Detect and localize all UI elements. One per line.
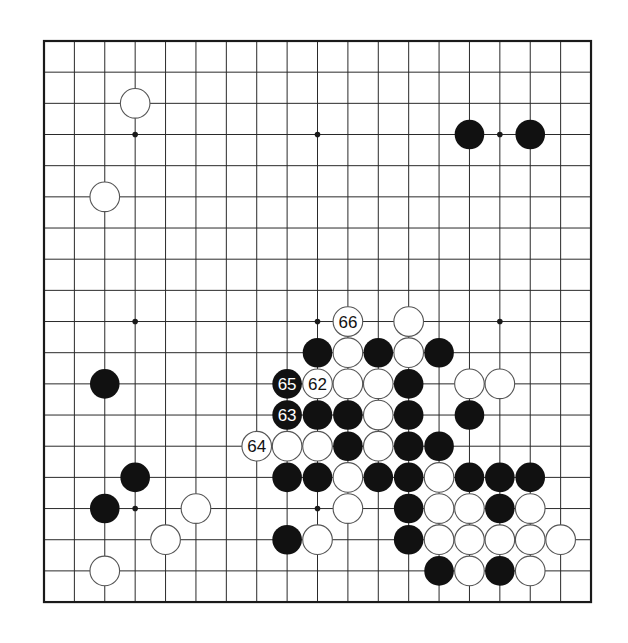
white-stone-icon [546, 525, 576, 555]
white-stone [272, 431, 302, 461]
white-stone-icon [485, 369, 515, 399]
black-stone-icon [485, 556, 515, 586]
white-stone-icon [151, 525, 181, 555]
white-stone [363, 369, 393, 399]
black-stone [90, 494, 120, 524]
black-stone [363, 338, 393, 368]
black-stone-icon [90, 369, 120, 399]
black-stone-icon [90, 494, 120, 524]
white-stone [333, 463, 363, 493]
white-stone [424, 494, 454, 524]
white-stone-icon [424, 525, 454, 555]
white-stone-icon [515, 556, 545, 586]
white-stone [455, 556, 485, 586]
go-board-diagram: 6665626364 [0, 0, 628, 643]
white-stone-icon [303, 525, 333, 555]
black-stone-icon [272, 525, 302, 555]
white-stone-icon [363, 431, 393, 461]
star-point-icon [497, 132, 503, 138]
white-stone-icon [363, 369, 393, 399]
black-stone-icon [120, 463, 150, 493]
black-stone-icon [394, 463, 424, 493]
white-stone-icon [90, 182, 120, 212]
white-stone [363, 400, 393, 430]
white-stone [485, 525, 515, 555]
white-stone [90, 556, 120, 586]
white-stone-icon [455, 369, 485, 399]
black-stone-icon [424, 431, 454, 461]
white-stone-icon [90, 556, 120, 586]
white-stone [455, 494, 485, 524]
black-stone [394, 400, 424, 430]
white-stone-icon [424, 494, 454, 524]
black-stone-icon [394, 369, 424, 399]
white-stone [151, 525, 181, 555]
white-stone-icon [455, 494, 485, 524]
white-stone [515, 494, 545, 524]
star-point-icon [132, 319, 138, 325]
white-stone-icon [424, 463, 454, 493]
black-stone [485, 556, 515, 586]
white-stone-icon [333, 369, 363, 399]
white-stone: 62 [303, 369, 333, 399]
black-stone-icon [455, 463, 485, 493]
black-stone-icon [363, 463, 393, 493]
white-stone [546, 525, 576, 555]
black-stone [455, 463, 485, 493]
star-point-icon [132, 132, 138, 138]
move-number-label: 65 [278, 375, 297, 394]
black-stone-icon [455, 120, 485, 150]
black-stone-icon [303, 400, 333, 430]
white-stone [90, 182, 120, 212]
white-stone [394, 338, 424, 368]
black-stone [424, 338, 454, 368]
move-number-label: 62 [308, 375, 327, 394]
black-stone: 63 [272, 400, 302, 430]
move-number-label: 66 [338, 313, 357, 332]
white-stone [120, 89, 150, 119]
black-stone [455, 120, 485, 150]
white-stone-icon [394, 338, 424, 368]
go-board[interactable]: 6665626364 [0, 0, 628, 643]
white-stone-icon [333, 494, 363, 524]
white-stone [333, 494, 363, 524]
black-stone [424, 431, 454, 461]
white-stone-icon [394, 307, 424, 337]
star-point-icon [132, 506, 138, 512]
white-stone-icon [333, 463, 363, 493]
black-stone [90, 369, 120, 399]
move-number-label: 64 [247, 437, 266, 456]
white-stone: 66 [333, 307, 363, 337]
white-stone-icon [363, 400, 393, 430]
black-stone-icon [303, 338, 333, 368]
white-stone [333, 369, 363, 399]
white-stone: 64 [242, 431, 272, 461]
black-stone-icon [424, 338, 454, 368]
white-stone-icon [120, 89, 150, 119]
white-stone [303, 525, 333, 555]
black-stone [515, 120, 545, 150]
white-stone [455, 369, 485, 399]
white-stone [515, 525, 545, 555]
black-stone [363, 463, 393, 493]
black-stone [394, 463, 424, 493]
black-stone-icon [303, 463, 333, 493]
black-stone [485, 494, 515, 524]
black-stone [394, 369, 424, 399]
star-point-icon [315, 506, 321, 512]
white-stone-icon [455, 525, 485, 555]
black-stone [303, 338, 333, 368]
white-stone-icon [515, 525, 545, 555]
black-stone: 65 [272, 369, 302, 399]
white-stone-icon [303, 431, 333, 461]
black-stone-icon [515, 120, 545, 150]
white-stone [394, 307, 424, 337]
black-stone-icon [424, 556, 454, 586]
black-stone [394, 494, 424, 524]
black-stone [485, 463, 515, 493]
white-stone-icon [455, 556, 485, 586]
white-stone [333, 338, 363, 368]
white-stone-icon [181, 494, 211, 524]
white-stone-icon [272, 431, 302, 461]
black-stone [394, 525, 424, 555]
